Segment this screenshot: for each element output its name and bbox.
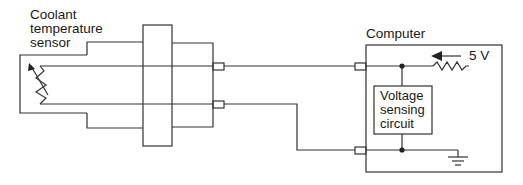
junction-dot-top xyxy=(399,63,404,68)
sensor-label: Coolant temperature sensor xyxy=(30,8,103,50)
supply-arrowhead-icon xyxy=(431,51,442,61)
thermistor-arrowhead-icon xyxy=(28,63,35,71)
computer-pin-bottom xyxy=(355,147,366,154)
ground-return-wire xyxy=(224,104,355,150)
thermistor-icon xyxy=(36,66,46,104)
junction-dot-bottom xyxy=(399,147,404,152)
sensor-connector-body xyxy=(172,43,213,127)
sensor-pin-bottom xyxy=(213,101,224,108)
voltage-sensing-circuit-label: Voltage sensing circuit xyxy=(380,89,425,131)
thermistor-arrow-line xyxy=(31,66,48,95)
pullup-resistor-icon xyxy=(433,62,469,70)
sensor-flange xyxy=(143,25,172,146)
sensor-housing-middle xyxy=(87,42,143,128)
computer-pin-top xyxy=(355,63,366,70)
supply-voltage-label: 5 V xyxy=(469,49,489,63)
computer-label: Computer xyxy=(366,27,425,41)
sensor-pin-top xyxy=(213,63,224,70)
